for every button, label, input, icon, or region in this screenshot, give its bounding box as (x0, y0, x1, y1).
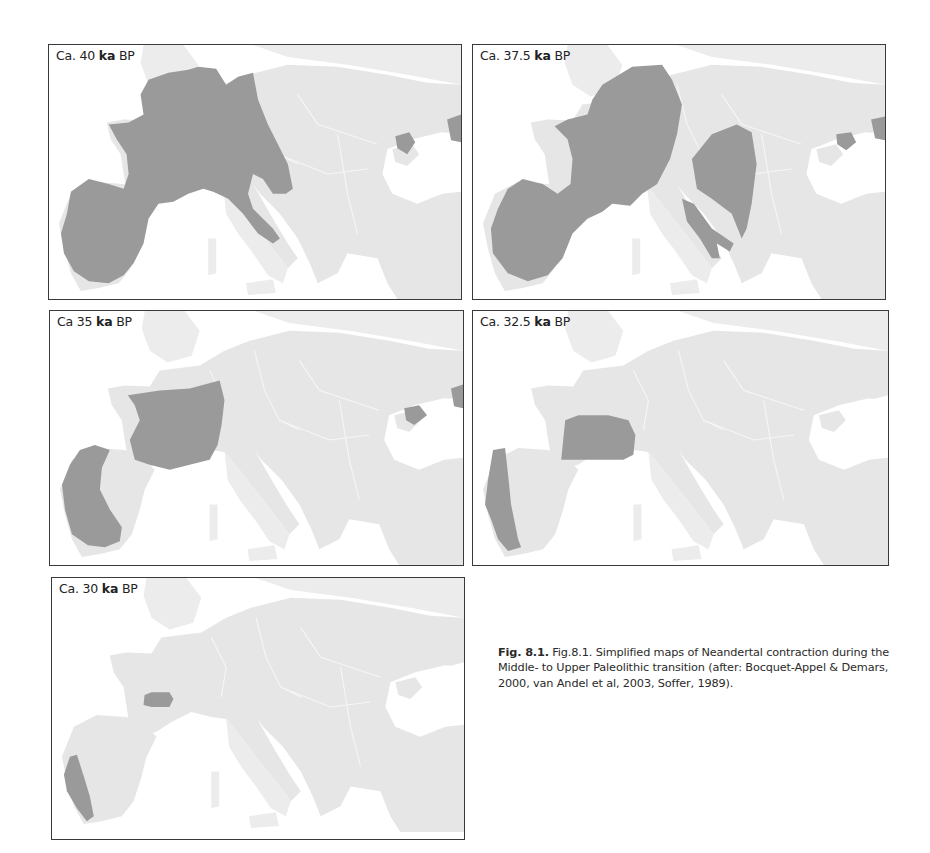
figure-caption: Fig. 8.1. Fig.8.1. Simplified maps of Ne… (498, 645, 898, 691)
map-panel-37-5ka: Ca. 37.5 ka BP (472, 44, 886, 300)
sw-france-refugium-area (144, 692, 174, 707)
europe-map (50, 311, 463, 565)
map-panel-40ka: Ca. 40 ka BP (48, 44, 462, 300)
neandertal-range-area (561, 415, 635, 460)
figure-number: Fig. 8.1. (498, 646, 549, 659)
map-panel-32-5ka: Ca. 32.5 ka BP (472, 310, 889, 566)
europe-map (473, 311, 888, 565)
panel-label: Ca. 30 ka BP (59, 581, 138, 596)
map-panel-35ka: Ca 35 ka BP (49, 310, 464, 566)
panel-label: Ca. 40 ka BP (56, 48, 135, 63)
caption-text: Fig.8.1. Simplified maps of Neandertal c… (498, 646, 889, 690)
europe-map (473, 45, 885, 299)
europe-map (49, 45, 461, 299)
neandertal-range-area (491, 65, 682, 281)
map-panel-30ka: Ca. 30 ka BP (51, 577, 465, 840)
panel-label: Ca 35 ka BP (57, 314, 132, 329)
panel-label: Ca. 37.5 ka BP (480, 48, 570, 63)
panel-label: Ca. 32.5 ka BP (480, 314, 570, 329)
europe-map (52, 578, 464, 839)
neandertal-range-area (128, 380, 225, 469)
